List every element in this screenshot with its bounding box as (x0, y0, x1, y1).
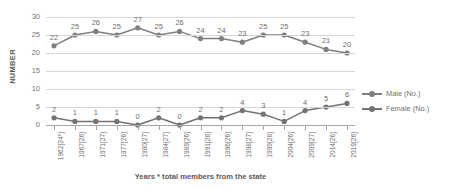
x-axis-tick-label: 2019[26] (350, 132, 357, 158)
data-point-label: 24 (217, 27, 225, 35)
data-point-label: 2 (52, 106, 56, 114)
y-axis-tick-label: 30 (20, 13, 40, 21)
x-axis-tickmark (96, 125, 97, 130)
y-axis-tick-label: 5 (20, 103, 40, 111)
data-point-label: 23 (301, 30, 309, 38)
plot-area: 2225262527252624242325252321202111020224… (46, 17, 355, 125)
x-axis-tick-labels: 1962[24*]1967[26]1971[27]1977[26]1980[27… (46, 132, 355, 168)
data-point-marker (198, 36, 203, 41)
y-axis-title: NUMBER (8, 37, 17, 97)
data-point-label: 1 (73, 109, 77, 117)
x-axis-tick-label: 1971[27] (99, 132, 106, 158)
x-axis-tickmark (180, 125, 181, 130)
data-point-marker (240, 40, 245, 45)
data-point-label: 4 (240, 99, 244, 107)
data-point-label: 21 (322, 37, 330, 45)
data-point-marker (261, 112, 266, 117)
data-point-label: 25 (71, 23, 79, 31)
x-axis-tick-label: 2014[26] (329, 132, 336, 158)
legend-item-label: Female (No.) (386, 104, 429, 113)
data-point-label: 3 (261, 102, 265, 110)
data-point-label: 26 (175, 19, 183, 27)
x-axis-tick-label: 1962[24*] (57, 132, 64, 160)
y-axis-tick-label: 25 (20, 31, 40, 39)
gridline (46, 53, 355, 54)
data-point-marker (303, 40, 308, 45)
x-axis-tickmark (242, 125, 243, 130)
data-point-label: 1 (94, 109, 98, 117)
data-point-marker (156, 115, 161, 120)
data-point-marker (219, 115, 224, 120)
data-point-marker (198, 115, 203, 120)
chart-legend: Male (No.)Female (No.) (362, 86, 453, 116)
data-point-marker (51, 115, 56, 120)
data-point-label: 2 (157, 106, 161, 114)
data-point-label: 20 (343, 41, 351, 49)
data-point-label: 22 (50, 34, 58, 42)
data-point-label: 25 (154, 23, 162, 31)
data-point-label: 1 (115, 109, 119, 117)
x-axis-tickmark (201, 125, 202, 130)
y-axis-tick-labels: 302520151050 (18, 0, 40, 190)
x-axis-tickmark (75, 125, 76, 130)
data-point-marker (323, 47, 328, 52)
data-point-marker (93, 119, 98, 124)
x-axis-tick-label: 2004[26] (287, 132, 294, 158)
gridline (46, 71, 355, 72)
data-point-label: 27 (134, 16, 142, 24)
data-point-label: 4 (303, 99, 307, 107)
data-point-marker (344, 101, 349, 106)
data-point-label: 26 (92, 19, 100, 27)
x-axis-tick-label: 1984[27] (162, 132, 169, 158)
legend-marker-icon (362, 104, 382, 114)
data-point-label: 24 (196, 27, 204, 35)
x-axis-tick-label: 1991[26] (204, 132, 211, 158)
x-axis-title: Years * total members from the state (46, 172, 355, 181)
data-point-marker (282, 119, 287, 124)
x-axis-tick-label: 1999[28] (266, 132, 273, 158)
data-point-marker (51, 43, 56, 48)
data-point-label: 2 (198, 106, 202, 114)
x-axis-tick-label: 1998[27] (245, 132, 252, 158)
data-point-marker (72, 119, 77, 124)
data-point-label: 23 (238, 30, 246, 38)
data-point-marker (240, 108, 245, 113)
x-axis-tickmark (347, 125, 348, 130)
data-point-marker (177, 29, 182, 34)
x-axis-tick-label: 1977[26] (120, 132, 127, 158)
data-point-label: 25 (280, 23, 288, 31)
x-axis-tick-label: 2009[27] (308, 132, 315, 158)
x-axis-tick-label: 1996[26] (224, 132, 231, 158)
data-point-label: 0 (177, 113, 181, 121)
data-point-label: 5 (324, 95, 328, 103)
x-axis-tick-label: 1980[27] (141, 132, 148, 158)
y-axis-tick-label: 10 (20, 85, 40, 93)
x-axis-tickmark (263, 125, 264, 130)
data-point-marker (219, 36, 224, 41)
x-axis-tick-label: 1967[26] (78, 132, 85, 158)
data-point-label: 2 (219, 106, 223, 114)
legend-item-male[interactable]: Male (No.) (362, 86, 453, 101)
data-point-label: 0 (136, 113, 140, 121)
x-axis-tick-label: 1989[26] (183, 132, 190, 158)
legend-item-female[interactable]: Female (No.) (362, 101, 453, 116)
gridline (46, 89, 355, 90)
x-axis-tickmark (305, 125, 306, 130)
legend-marker-icon (362, 89, 382, 99)
x-axis-tickmark (326, 125, 327, 130)
y-axis-tick-label: 20 (20, 49, 40, 57)
data-point-label: 1 (282, 109, 286, 117)
x-axis-tickmark (221, 125, 222, 130)
x-axis-tickmarks (46, 125, 355, 131)
data-point-label: 6 (345, 91, 349, 99)
data-point-marker (93, 29, 98, 34)
x-axis-tickmark (117, 125, 118, 130)
data-point-marker (135, 25, 140, 30)
data-point-label: 25 (113, 23, 121, 31)
data-point-label: 25 (259, 23, 267, 31)
x-axis-tickmark (138, 125, 139, 130)
x-axis-tickmark (159, 125, 160, 130)
data-point-marker (303, 108, 308, 113)
y-axis-tick-label: 15 (20, 67, 40, 75)
y-axis-tick-label: 0 (20, 121, 40, 129)
